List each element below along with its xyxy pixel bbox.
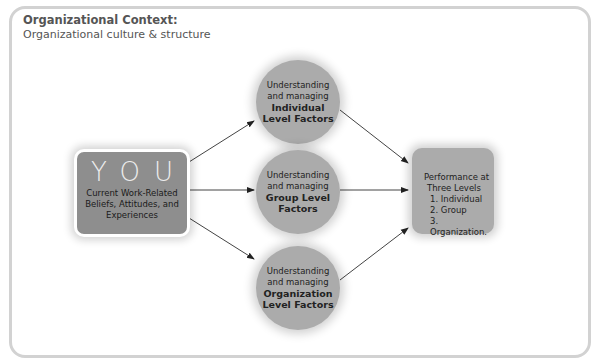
factor-label: Individual — [271, 102, 324, 113]
you-line-2: Beliefs, Attitudes, and — [77, 199, 187, 210]
factor-intro: and managing — [267, 277, 328, 288]
you-line-1: Current Work-Related — [77, 188, 187, 199]
factor-label: Factors — [278, 203, 317, 214]
you-heading: YOU — [77, 156, 187, 188]
performance-line-1: Performance at — [412, 172, 494, 183]
performance-item: 1. Individual — [412, 194, 494, 205]
factor-intro: and managing — [267, 181, 328, 192]
you-line-3: Experiences — [77, 210, 187, 221]
you-box: YOU Current Work-Related Beliefs, Attitu… — [74, 149, 190, 237]
performance-item: 2. Group — [412, 205, 494, 216]
factor-intro: Understanding — [267, 266, 330, 277]
factor-intro: Understanding — [267, 170, 330, 181]
factor-intro: and managing — [267, 91, 328, 102]
factor-label: Group Level — [266, 192, 330, 203]
group-factors-circle: Understanding and managing Group Level F… — [256, 150, 340, 234]
factor-label: Organization — [263, 288, 332, 299]
organization-factors-circle: Understanding and managing Organization … — [256, 246, 340, 330]
performance-box: Performance at Three Levels 1. Individua… — [412, 148, 494, 234]
factor-label: Level Factors — [262, 113, 333, 124]
individual-factors-circle: Understanding and managing Individual Le… — [256, 60, 340, 144]
factor-label: Level Factors — [262, 299, 333, 310]
performance-item: 3. Organization. — [412, 216, 494, 238]
factor-intro: Understanding — [267, 80, 330, 91]
performance-line-2: Three Levels — [412, 183, 494, 194]
